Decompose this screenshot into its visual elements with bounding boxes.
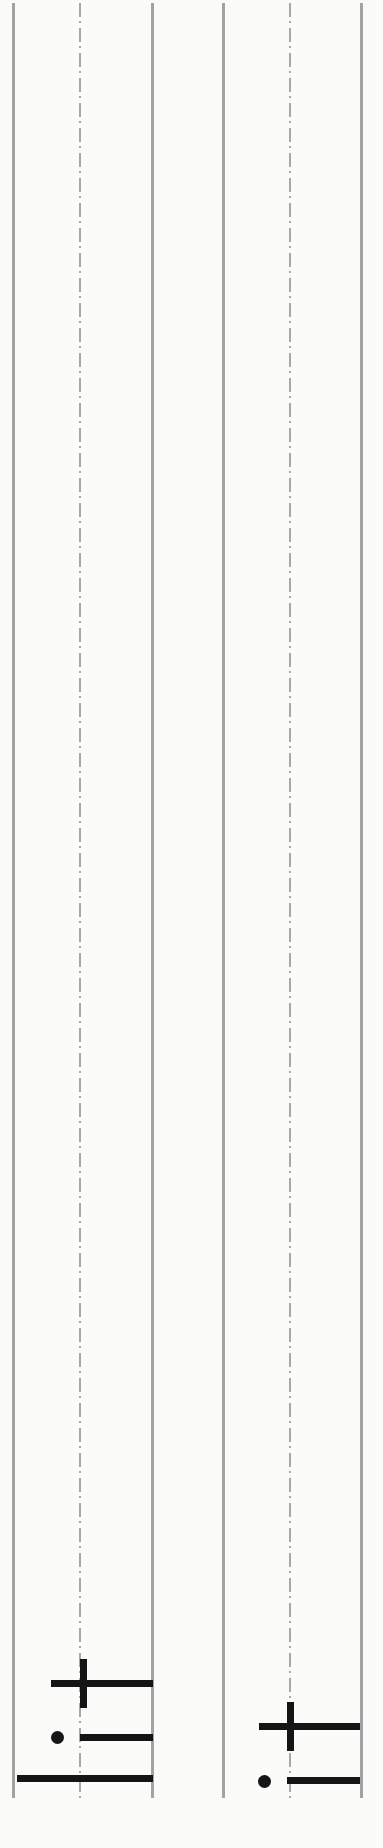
right-cross-horizontal-bar [259,1723,360,1730]
left-long-bar [17,1775,153,1782]
right-staff-inner-line [360,3,363,1798]
left-staff-inner-line [151,3,154,1798]
right-cross-vertical-bar [287,1702,294,1751]
left-short-bar [80,1734,153,1741]
right-short-bar [287,1777,360,1784]
right-dot-mark [258,1775,271,1788]
right-staff-outer-line [222,3,225,1798]
left-staff-center-dashdot-line [79,3,81,1798]
left-staff-outer-line [12,3,15,1798]
left-cross-horizontal-bar [51,1680,153,1687]
left-cross-vertical-bar [80,1659,87,1708]
left-dot-mark [51,1731,64,1744]
right-staff-center-dashdot-line [289,3,291,1798]
